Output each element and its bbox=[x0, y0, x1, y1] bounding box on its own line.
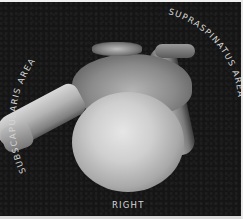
subscapularis-area-label: SUBSCAPULARIS AREA bbox=[7, 56, 37, 176]
right-border bbox=[241, 0, 243, 219]
figure-frame: SUBSCAPULARIS AREA SUPRASPINATUS AREA RI… bbox=[0, 0, 243, 219]
supraspinatus-area-label: SUPRASPINATUS AREA bbox=[167, 6, 243, 98]
side-label: RIGHT bbox=[112, 200, 145, 210]
bottom-border bbox=[0, 216, 243, 219]
arc-labels: SUBSCAPULARIS AREA SUPRASPINATUS AREA bbox=[0, 0, 243, 219]
